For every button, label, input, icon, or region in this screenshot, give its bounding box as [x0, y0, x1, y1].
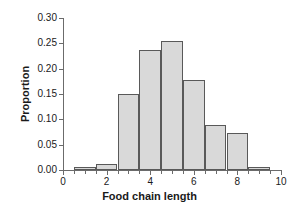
y-axis-tick-label: 0.20 — [38, 64, 57, 74]
x-axis-tick — [194, 170, 195, 175]
y-axis-tick — [59, 145, 63, 146]
x-axis-tick — [183, 170, 184, 174]
y-axis-tick — [59, 69, 63, 70]
y-axis-tick — [59, 119, 63, 120]
x-axis-tick-label: 0 — [60, 177, 66, 187]
plot-area: 0.000.050.100.150.200.250.30 — [63, 18, 281, 170]
x-axis-tick — [281, 170, 282, 175]
y-axis-tick — [59, 18, 63, 19]
x-axis-tick-label: 8 — [235, 177, 241, 187]
x-axis-tick — [74, 170, 75, 174]
x-axis-title: Food chain length — [0, 190, 299, 202]
y-axis-tick-label: 0.05 — [38, 140, 57, 150]
histogram-figure: Proportion 0.000.050.100.150.200.250.30 … — [0, 0, 299, 215]
x-axis-tick — [85, 170, 86, 174]
histogram-bar — [161, 41, 183, 170]
y-axis-tick-label: 0.10 — [38, 114, 57, 124]
x-axis-tick — [227, 170, 228, 174]
x-axis-tick — [139, 170, 140, 174]
x-axis-tick — [150, 170, 151, 175]
y-axis-tick — [59, 94, 63, 95]
y-axis-tick-label: 0.00 — [38, 165, 57, 175]
x-axis-tick — [216, 170, 217, 174]
y-axis-tick-label: 0.15 — [38, 89, 57, 99]
histogram-bar — [205, 125, 227, 170]
histogram-bar — [118, 94, 140, 170]
x-axis-tick-label: 2 — [104, 177, 110, 187]
x-axis-tick — [205, 170, 206, 174]
x-axis-tick — [118, 170, 119, 174]
x-axis-tick — [270, 170, 271, 174]
x-axis-tick — [248, 170, 249, 174]
x-axis-tick — [161, 170, 162, 174]
x-axis-tick-label: 4 — [147, 177, 153, 187]
x-axis-tick — [259, 170, 260, 174]
histogram-bar — [227, 133, 249, 170]
x-axis-tick — [172, 170, 173, 174]
y-axis-tick-label: 0.30 — [38, 13, 57, 23]
x-axis-tick — [96, 170, 97, 174]
histogram-bar — [139, 50, 161, 170]
x-axis-tick — [128, 170, 129, 174]
x-axis-tick — [63, 170, 64, 175]
x-axis-tick — [107, 170, 108, 175]
histogram-bar — [183, 80, 205, 170]
y-axis-tick-label: 0.25 — [38, 38, 57, 48]
y-axis-title: Proportion — [16, 18, 34, 170]
x-axis-tick — [237, 170, 238, 175]
y-axis-tick — [59, 43, 63, 44]
x-axis-tick-label: 10 — [275, 177, 286, 187]
x-axis-tick-label: 6 — [191, 177, 197, 187]
